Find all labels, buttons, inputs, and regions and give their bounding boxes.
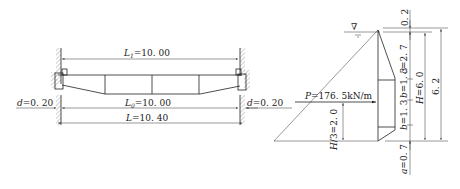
right-gate-diagram: ∇ P=176. 5kN/m H/3=2. 0 — [274, 9, 448, 175]
beam — [58, 75, 242, 94]
label-a: a=0. 7 — [399, 144, 409, 174]
gate — [378, 30, 395, 141]
label-P: P=176. 5kN/m — [304, 91, 373, 101]
pressure-triangle — [274, 30, 378, 141]
label-L: L=10. 40 — [125, 113, 168, 123]
label-top-gap: 0. 2 — [400, 9, 410, 26]
label-H-third: H/3=2. 0 — [329, 108, 339, 151]
label-L1: L1=10. 00 — [123, 48, 170, 59]
diagram-canvas: L1=10. 00 L0=10. 00 L=10. 40 d=0. 20 d=0… — [0, 0, 460, 189]
label-H: H=6. 0 — [415, 71, 425, 105]
label-total: 6. 2 — [431, 78, 441, 95]
left-beam-diagram: L1=10. 00 L0=10. 00 L=10. 40 d=0. 20 d=0… — [16, 48, 292, 125]
water-level-symbol: ∇ — [351, 22, 357, 32]
label-L0: L0=10. 00 — [124, 98, 171, 109]
label-d-left: d=0. 20 — [17, 98, 53, 108]
label-b-lower: b=1. 3 — [399, 99, 409, 130]
label-d-right: d=0. 20 — [247, 98, 283, 108]
left-wall — [51, 48, 61, 125]
right-wall — [240, 48, 250, 125]
label-b-upper: b=1. 3 — [399, 67, 409, 98]
